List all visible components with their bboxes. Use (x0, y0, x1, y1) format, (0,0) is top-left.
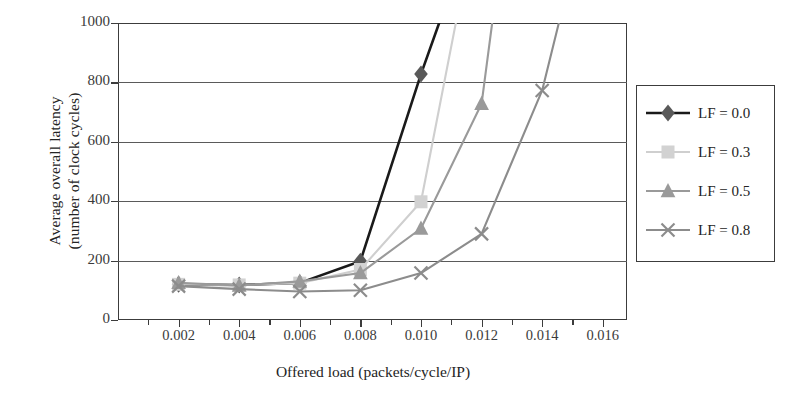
y-tick-label: 0 (54, 310, 110, 327)
y-axis-tick-labels: 02004006008001000 (48, 0, 110, 399)
y-tick-mark (111, 82, 118, 83)
x-marker (475, 227, 488, 240)
x-tick-mark-minor (330, 320, 331, 325)
legend-item-label: LF = 0.8 (691, 222, 750, 239)
x-tick-mark-minor (269, 320, 270, 325)
y-tick-label: 400 (54, 191, 110, 208)
x-tick-label: 0.004 (208, 327, 270, 344)
data-series (171, 23, 492, 292)
y-tick-label: 800 (54, 72, 110, 89)
triangle-marker (474, 96, 489, 110)
y-tick-mark (111, 320, 118, 321)
y-tick-label: 600 (54, 132, 110, 149)
diamond-marker (414, 66, 428, 83)
legend-item-label: LF = 0.5 (691, 183, 750, 200)
x-tick-mark (179, 320, 180, 327)
x-tick-mark (421, 320, 422, 327)
legend-item[interactable]: LF = 0.3 (645, 137, 769, 167)
x-marker (414, 267, 427, 280)
y-tick-mark (111, 23, 118, 24)
x-tick-mark (239, 320, 240, 327)
x-tick-label: 0.014 (511, 327, 573, 344)
y-tick-mark (111, 142, 118, 143)
y-tick-mark (111, 261, 118, 262)
x-tick-mark (360, 320, 361, 327)
legend-item[interactable]: LF = 0.8 (645, 215, 769, 245)
legend: LF = 0.0LF = 0.3LF = 0.5LF = 0.8 (636, 85, 775, 262)
legend-item-label: LF = 0.0 (691, 105, 750, 122)
y-tick-label: 1000 (54, 13, 110, 30)
x-tick-mark-minor (391, 320, 392, 325)
x-tick-label: 0.002 (148, 327, 210, 344)
legend-item[interactable]: LF = 0.5 (645, 176, 769, 206)
x-tick-label: 0.006 (269, 327, 331, 344)
y-tick-mark (111, 201, 118, 202)
plot-area (118, 23, 627, 320)
square-marker (414, 195, 427, 208)
triangle-marker (414, 221, 429, 235)
x-tick-mark-minor (148, 320, 149, 325)
legend-item-label: LF = 0.3 (691, 144, 750, 161)
data-series (172, 23, 456, 291)
x-tick-mark (603, 320, 604, 327)
x-tick-mark-minor (209, 320, 210, 325)
series-line (179, 23, 559, 291)
series-line (179, 23, 493, 286)
x-tick-label: 0.012 (451, 327, 513, 344)
x-tick-mark (300, 320, 301, 327)
data-series (172, 23, 439, 293)
line-chart-figure: Average overall latency (number of clock… (0, 0, 791, 399)
x-tick-mark (482, 320, 483, 327)
x-tick-mark-minor (572, 320, 573, 325)
series-line (179, 23, 456, 285)
x-tick-label: 0.008 (329, 327, 391, 344)
x-marker (536, 84, 549, 97)
legend-item[interactable]: LF = 0.0 (645, 98, 769, 128)
x-axis-title: Offered load (packets/cycle/IP) (118, 363, 628, 381)
x-tick-label: 0.016 (572, 327, 634, 344)
diamond-marker (661, 105, 675, 122)
data-series-layer (118, 23, 627, 320)
y-tick-label: 200 (54, 251, 110, 268)
x-tick-label: 0.010 (390, 327, 452, 344)
x-tick-mark (542, 320, 543, 327)
x-tick-mark-minor (512, 320, 513, 325)
square-marker (645, 141, 691, 163)
triangle-marker (645, 180, 691, 202)
diamond-marker (645, 102, 691, 124)
x-tick-mark-minor (451, 320, 452, 325)
x-marker (645, 219, 691, 241)
series-line (179, 23, 440, 285)
square-marker (662, 146, 675, 159)
data-series (172, 23, 559, 298)
